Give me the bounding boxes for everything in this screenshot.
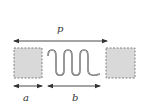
a-label: a: [23, 92, 29, 103]
dimension-a: a: [14, 86, 42, 103]
b-label: b: [72, 92, 78, 103]
dimension-p: p: [14, 23, 107, 41]
left-pad: [14, 48, 42, 78]
p-label: p: [57, 23, 64, 34]
meander-pad-diagram: p a b: [0, 0, 146, 105]
right-pad: [106, 48, 135, 78]
dimension-b: b: [48, 86, 100, 103]
